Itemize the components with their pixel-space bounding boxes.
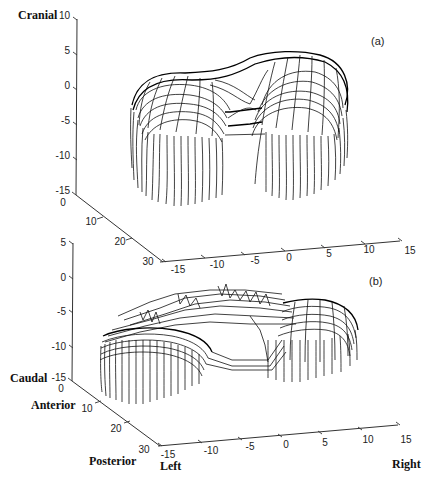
x-tick-label: 10 [363, 244, 375, 255]
x-tick-label: -5 [251, 255, 260, 266]
z-axis-title-caudal: Caudal [10, 371, 48, 385]
z-ticks-b: 5 0 -5 -10 -15 [52, 237, 73, 383]
x-tick-label: -10 [210, 259, 225, 270]
y-tick-label: 10 [81, 403, 93, 414]
x-tick-label: 5 [326, 248, 332, 259]
z-axis-title-cranial: Cranial [18, 8, 58, 22]
wireframe-surface-a [131, 52, 348, 206]
x-ticks-a: -15 -10 -5 0 5 10 15 [162, 238, 416, 275]
y-axis-a [76, 195, 163, 262]
x-tick-label: 10 [362, 434, 374, 445]
x-tick-label: 15 [404, 245, 416, 256]
z-tick-label: 0 [60, 272, 66, 283]
z-tick-label: -10 [52, 341, 67, 352]
plot-b: 5 0 -5 -10 -15 Caudal 0 10 20 30 Anterio… [10, 237, 421, 473]
x-tick-label: -15 [171, 264, 186, 275]
y-tick-label: 20 [114, 236, 126, 247]
z-tick-label: 10 [59, 10, 71, 21]
z-tick-label: -15 [56, 185, 71, 196]
y-tick-label: 10 [85, 216, 97, 227]
z-ticks-a: 10 5 0 -5 -10 -15 [56, 10, 77, 196]
z-tick-label: -10 [56, 150, 71, 161]
x-tick-label: -5 [246, 441, 255, 452]
x-ticks-b: -15 -10 -5 0 5 10 15 [158, 422, 412, 460]
x-tick-label: 15 [400, 434, 412, 445]
z-tick-label: -5 [61, 115, 70, 126]
z-tick-label: -15 [52, 372, 67, 383]
figure: Cranial 10 5 0 -5 -10 -15 0 10 20 30 [0, 0, 428, 478]
x-tick-label: 5 [322, 437, 328, 448]
y-tick-label: 20 [110, 423, 122, 434]
y-tick-label: 0 [58, 383, 64, 394]
z-tick-label: -5 [57, 306, 66, 317]
z-tick-label: 5 [60, 237, 66, 248]
panel-label-a: (a) [371, 35, 384, 47]
x-tick-label: 0 [283, 439, 289, 450]
wireframe-surface-b [100, 284, 358, 404]
y-tick-label: 30 [142, 256, 154, 267]
panel-label-b: (b) [369, 275, 382, 287]
plot-a: Cranial 10 5 0 -5 -10 -15 0 10 20 30 [18, 8, 416, 275]
z-axis-a [76, 19, 77, 195]
y-axis-title-anterior: Anterior [31, 398, 76, 412]
y-ticks-a: 0 10 20 30 [60, 197, 154, 267]
z-tick-label: 0 [64, 80, 70, 91]
x-tick-label: 0 [286, 252, 292, 263]
x-axis-title-right: Right [392, 457, 421, 471]
y-tick-label: 30 [138, 444, 150, 455]
y-tick-label: 0 [60, 197, 66, 208]
y-axis-title-posterior: Posterior [89, 454, 137, 468]
x-tick-label: -10 [204, 445, 219, 456]
z-tick-label: 5 [64, 45, 70, 56]
x-axis-title-left: Left [160, 459, 181, 473]
